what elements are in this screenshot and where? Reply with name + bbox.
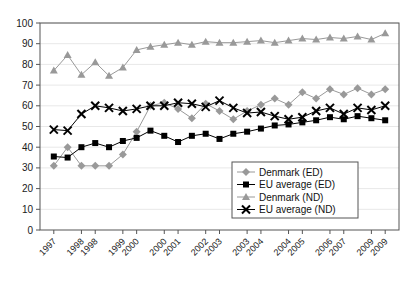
y-tick-label: 20 [22, 183, 34, 194]
data-point [299, 119, 305, 125]
chart-container: 0102030405060708090100199719981998199920… [0, 0, 412, 281]
legend-label: EU average (ED) [259, 179, 335, 190]
y-tick-label: 60 [22, 100, 34, 111]
y-tick-label: 10 [22, 204, 34, 215]
data-point [134, 135, 140, 141]
data-point [272, 122, 278, 128]
data-point [51, 154, 57, 160]
data-point [65, 155, 71, 161]
data-point [355, 113, 361, 119]
data-point [189, 133, 195, 139]
data-point [120, 138, 126, 144]
data-point [327, 114, 333, 120]
data-point [286, 121, 292, 127]
data-point [203, 131, 209, 137]
legend-label: EU average (ND) [259, 204, 336, 215]
x-tick-label: 1997 [37, 236, 58, 257]
y-tick-label: 80 [22, 59, 34, 70]
data-point [313, 117, 319, 123]
data-point [368, 115, 374, 121]
y-tick-label: 0 [27, 225, 33, 236]
data-point [217, 136, 223, 142]
x-axis: 1997199819981999200020002001200220032003… [37, 230, 390, 258]
data-point [92, 140, 98, 146]
data-point [78, 144, 84, 150]
data-point [341, 116, 347, 122]
legend-label: Denmark (ED) [259, 167, 323, 178]
y-tick-label: 90 [22, 38, 34, 49]
y-tick-label: 100 [16, 18, 33, 29]
y-tick-label: 40 [22, 142, 34, 153]
y-tick-label: 50 [22, 121, 34, 132]
y-tick-label: 30 [22, 162, 34, 173]
data-point [382, 117, 388, 123]
data-point [147, 128, 153, 134]
legend-marker-square-icon [243, 182, 249, 188]
data-point [106, 144, 112, 150]
y-axis: 0102030405060708090100 [16, 18, 40, 236]
data-point [161, 133, 167, 139]
line-chart: 0102030405060708090100199719981998199920… [0, 0, 412, 281]
y-tick-label: 70 [22, 80, 34, 91]
data-point [244, 129, 250, 135]
legend: Denmark (ED)EU average (ED)Denmark (ND)E… [232, 162, 358, 218]
data-point [258, 126, 264, 132]
data-point [175, 139, 181, 145]
data-point [230, 131, 236, 137]
legend-label: Denmark (ND) [259, 192, 323, 203]
